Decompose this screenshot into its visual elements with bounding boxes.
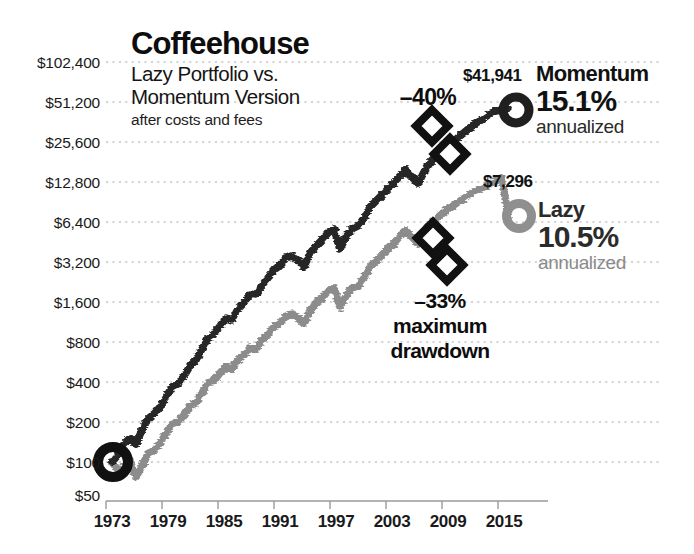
x-tick-label: 2009 bbox=[421, 512, 475, 532]
end-value-lazy: $7,296 bbox=[483, 172, 533, 192]
y-tick-label: $50 bbox=[8, 487, 100, 505]
legend-annualized-lazy: annualized bbox=[538, 253, 690, 274]
x-axis bbox=[106, 501, 548, 509]
drawdown-markers-lazy bbox=[417, 222, 463, 281]
y-tick-label: $25,600 bbox=[8, 134, 100, 152]
legend-label-momentum: Momentum bbox=[536, 62, 688, 85]
y-tick-label: $102,400 bbox=[8, 54, 100, 72]
x-tick-label: 1991 bbox=[253, 512, 307, 532]
chart-subtitle-line2: Momentum Version bbox=[131, 86, 411, 109]
page-title: Coffeehouse bbox=[131, 28, 411, 59]
y-tick-label: $51,200 bbox=[8, 94, 100, 112]
chart-container: $102,400 $51,200 $25,600 $12,800 $6,400 … bbox=[0, 0, 694, 554]
annotation-lazy-drawdown-pct: –33% bbox=[378, 289, 502, 314]
endpoint-marker-momentum bbox=[503, 97, 529, 123]
annotation-drawdown-line2: drawdown bbox=[378, 339, 502, 364]
x-tick-label: 1973 bbox=[85, 512, 139, 532]
y-tick-label: $1,600 bbox=[8, 294, 100, 312]
legend-value-lazy: 10.5% bbox=[538, 221, 690, 253]
y-tick-label: $400 bbox=[8, 374, 100, 392]
chart-title-block: Coffeehouse Lazy Portfolio vs. Momentum … bbox=[131, 28, 411, 129]
legend-item-momentum[interactable]: Momentum 15.1% annualized bbox=[536, 62, 688, 138]
y-tick-label: $800 bbox=[8, 334, 100, 352]
end-value-momentum: $41,941 bbox=[463, 66, 522, 86]
y-tick-label: $6,400 bbox=[8, 214, 100, 232]
y-tick-label: $3,200 bbox=[8, 254, 100, 272]
legend-item-lazy[interactable]: Lazy 10.5% annualized bbox=[538, 198, 690, 274]
y-tick-label: $12,800 bbox=[8, 174, 100, 192]
annotation-drawdown-line1: maximum bbox=[378, 314, 502, 339]
y-tick-label: $200 bbox=[8, 414, 100, 432]
legend-label-lazy: Lazy bbox=[538, 198, 690, 221]
endpoint-marker-lazy bbox=[507, 204, 532, 229]
legend-value-momentum: 15.1% bbox=[536, 85, 688, 117]
y-tick-label: $100 bbox=[8, 454, 100, 472]
x-tick-label: 1985 bbox=[197, 512, 251, 532]
legend-annualized-momentum: annualized bbox=[536, 117, 688, 138]
chart-subtitle-line1: Lazy Portfolio vs. bbox=[131, 63, 411, 86]
chart-subtitle-note: after costs and fees bbox=[131, 111, 411, 129]
x-tick-label: 2003 bbox=[365, 512, 419, 532]
x-tick-label: 2015 bbox=[477, 512, 531, 532]
annotation-momentum-drawdown: –40% bbox=[393, 84, 463, 111]
annotation-lazy-drawdown-block: –33% maximum drawdown bbox=[378, 289, 502, 363]
x-tick-label: 1997 bbox=[309, 512, 363, 532]
x-tick-label: 1979 bbox=[141, 512, 195, 532]
